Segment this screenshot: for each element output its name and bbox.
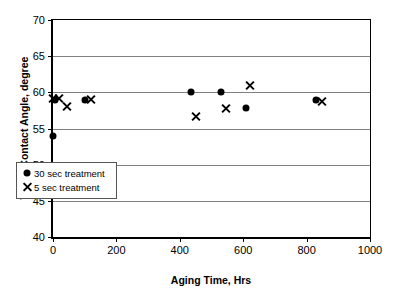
y-axis-tick-label: 55 [33,123,45,135]
y-axis-tick-label: 40 [33,231,45,243]
data-point-marker [218,89,225,96]
x-axis-tick [116,237,117,242]
y-axis-tick [48,201,53,202]
x-axis-tick [370,237,371,242]
legend-item-5-sec: 5 sec treatment [21,180,112,194]
cross-marker-icon [21,181,33,193]
legend-item-30-sec: 30 sec treatment [21,166,112,180]
gridline [53,56,370,57]
chart-legend: 30 sec treatment 5 sec treatment [16,162,117,199]
x-axis-tick [307,237,308,242]
x-axis-title: Aging Time, Hrs [51,274,371,286]
y-axis-tick [48,56,53,57]
legend-label: 30 sec treatment [34,168,105,179]
x-axis-tick-label: 800 [297,244,315,256]
data-point-marker [63,102,72,111]
y-axis-tick-label: 70 [33,14,45,26]
data-point-marker [243,105,250,112]
gridline [53,129,370,130]
data-point-marker [50,132,57,139]
y-axis-tick-label: 60 [33,86,45,98]
data-point-marker [245,81,254,90]
gridline [53,201,370,202]
y-axis-tick [48,20,53,21]
x-axis-tick-label: 600 [234,244,252,256]
y-axis-tick-label: 65 [33,50,45,62]
data-point-marker [191,112,200,121]
x-axis-tick-label: 200 [107,244,125,256]
data-point-marker [187,89,194,96]
y-axis-title: Water Contact Angle, degree [18,18,30,238]
data-point-marker [221,104,230,113]
x-axis-tick [53,237,54,242]
x-axis-tick-label: 0 [50,244,56,256]
data-point-marker [318,97,327,106]
legend-label: 5 sec treatment [34,182,99,193]
x-axis-tick [243,237,244,242]
x-axis-tick-label: 1000 [358,244,382,256]
gridline [53,92,370,93]
plot-area: 4045505560657002004006008001000 [51,19,371,239]
data-point-marker [87,95,96,104]
chart-figure: Water Contact Angle, degree 404550556065… [0,0,413,294]
x-axis-tick [180,237,181,242]
filled-circle-marker-icon [21,167,33,179]
x-axis-tick-label: 400 [171,244,189,256]
y-axis-tick [48,129,53,130]
